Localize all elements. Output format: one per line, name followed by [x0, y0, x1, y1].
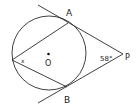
center-point — [47, 53, 50, 56]
circle-tangent-diagram: A B P O x 58° — [0, 0, 138, 111]
label-a: A — [66, 8, 73, 18]
angle-p-label: 58° — [100, 55, 112, 63]
chord-to-a — [12, 23, 68, 60]
chord-to-b — [12, 60, 67, 87]
tangent-line-pa — [38, 5, 123, 54]
label-o: O — [45, 59, 51, 68]
label-b: B — [64, 95, 70, 105]
label-p: P — [125, 53, 130, 62]
angle-x-label: x — [21, 57, 25, 64]
